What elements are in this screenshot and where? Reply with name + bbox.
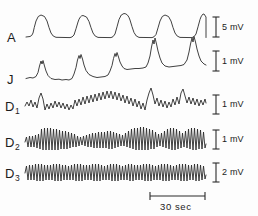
trace-path-j [26, 37, 206, 81]
scale-bar-d3: 2 mV [213, 163, 244, 182]
trace-label-d3: D [5, 166, 15, 181]
scale-label-j: 1 mV [222, 56, 244, 66]
time-scale-bar: 30 sec [150, 192, 205, 212]
trace-path-a [26, 14, 206, 38]
trace-sublabel-d2: 2 [15, 142, 20, 152]
trace-path-d2 [25, 127, 206, 150]
trace-group-a: A 5 mV [7, 14, 244, 46]
trace-group-j: J 1 mV [7, 37, 244, 88]
trace-group-d3: D 3 2 mV [5, 163, 244, 183]
scale-bar-j: 1 mV [213, 51, 244, 71]
trace-path-d3 [25, 164, 206, 181]
scale-label-d2: 1 mV [222, 134, 244, 144]
time-scale-label: 30 sec [160, 201, 192, 212]
trace-sublabel-d3: 3 [15, 173, 20, 183]
scale-label-d1: 1 mV [222, 99, 244, 109]
trace-group-d2: D 2 1 mV [5, 127, 244, 152]
trace-label-j: J [7, 72, 14, 87]
trace-label-a: A [7, 30, 16, 45]
trace-path-d1 [25, 88, 206, 110]
scale-label-d3: 2 mV [222, 167, 244, 177]
trace-label-d1: D [5, 99, 15, 114]
scale-label-a: 5 mV [222, 22, 244, 32]
trace-group-d1: D 1 1 mV [5, 88, 244, 116]
scale-bar-a: 5 mV [213, 17, 244, 37]
traces-canvas: A 5 mV J 1 mV D 1 [0, 0, 258, 216]
trace-label-d2: D [5, 135, 15, 150]
trace-sublabel-d1: 1 [15, 106, 20, 116]
scale-bar-d2: 1 mV [213, 130, 244, 149]
recording-figure: A 5 mV J 1 mV D 1 [0, 0, 258, 216]
scale-bar-d1: 1 mV [213, 95, 244, 114]
